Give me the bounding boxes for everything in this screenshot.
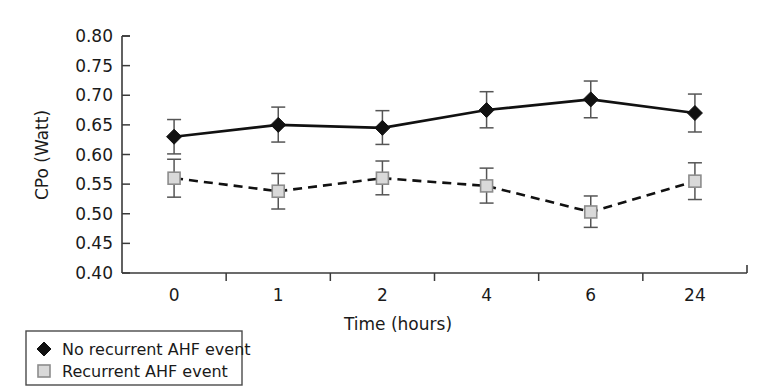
x-axis-title: Time (hours) — [343, 314, 452, 334]
x-axis-tick-labels: 0124624 — [169, 285, 706, 305]
y-axis-title: CPo (Watt) — [32, 110, 52, 200]
x-axis-tick-marks — [226, 273, 643, 281]
cpo-over-time-line-chart: CPo (Watt) 0.800.750.700.650.600.550.500… — [0, 0, 775, 392]
data-point-diamond — [167, 129, 182, 144]
data-point-square — [168, 172, 180, 184]
x-tick-label: 24 — [684, 285, 706, 305]
y-tick-label: 0.80 — [75, 26, 113, 46]
data-point-square — [585, 206, 597, 218]
y-tick-label: 0.70 — [75, 85, 113, 105]
series-line — [174, 99, 695, 136]
data-point-diamond — [375, 120, 390, 135]
series-2 — [167, 159, 702, 227]
series-layer — [167, 81, 703, 227]
legend-label: Recurrent AHF event — [62, 362, 228, 381]
data-point-diamond — [271, 117, 286, 132]
x-tick-label: 4 — [481, 285, 492, 305]
y-tick-label: 0.40 — [75, 263, 113, 283]
data-point-square — [272, 185, 284, 197]
series-line — [174, 178, 695, 212]
y-tick-label: 0.55 — [75, 174, 113, 194]
x-tick-label: 1 — [273, 285, 284, 305]
data-point-diamond — [479, 103, 494, 118]
legend-marker-square — [38, 365, 50, 377]
y-tick-label: 0.60 — [75, 145, 113, 165]
chart-figure: CPo (Watt) 0.800.750.700.650.600.550.500… — [0, 0, 775, 392]
data-point-square — [689, 175, 701, 187]
series-1 — [167, 81, 703, 154]
legend-label: No recurrent AHF event — [62, 340, 251, 359]
data-point-diamond — [583, 92, 598, 107]
y-tick-label: 0.45 — [75, 233, 113, 253]
x-tick-label: 6 — [585, 285, 596, 305]
chart-legend: No recurrent AHF eventRecurrent AHF even… — [26, 331, 251, 385]
y-axis-tick-labels: 0.800.750.700.650.600.550.500.450.40 — [75, 26, 113, 283]
y-tick-label: 0.50 — [75, 204, 113, 224]
y-tick-label: 0.65 — [75, 115, 113, 135]
y-axis-tick-marks — [122, 36, 130, 273]
x-tick-label: 2 — [377, 285, 388, 305]
data-point-diamond — [687, 106, 702, 121]
x-tick-label: 0 — [169, 285, 180, 305]
data-point-square — [376, 172, 388, 184]
y-tick-label: 0.75 — [75, 56, 113, 76]
data-point-square — [481, 180, 493, 192]
